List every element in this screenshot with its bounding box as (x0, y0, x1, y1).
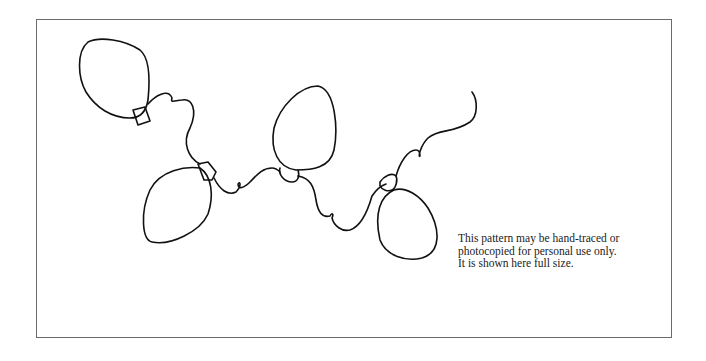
bulb-3 (273, 86, 336, 182)
caption-line-2: photocopied for personal use only. (458, 245, 619, 258)
usage-caption: This pattern may be hand-traced or photo… (458, 232, 619, 270)
cord-3 (298, 176, 386, 230)
cord-2 (214, 168, 280, 193)
bulb-2 (143, 162, 216, 243)
bulb-1 (80, 39, 151, 125)
cord-4-tail (396, 92, 476, 176)
bulb-4 (378, 174, 437, 259)
cord-1 (148, 93, 200, 164)
caption-line-3: It is shown here full size. (458, 257, 619, 270)
christmas-lights-drawing (0, 0, 706, 361)
caption-line-1: This pattern may be hand-traced or (458, 232, 619, 245)
